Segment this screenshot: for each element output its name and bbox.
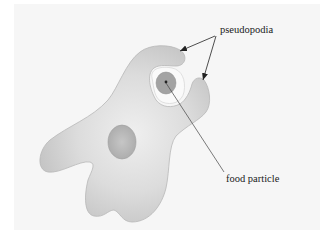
amoeba-diagram: pseudopodia food particle xyxy=(0,0,334,237)
label-food-particle: food particle xyxy=(226,173,280,184)
food-particle-dot xyxy=(165,81,168,84)
label-pseudopodia: pseudopodia xyxy=(220,24,273,35)
nucleus xyxy=(108,125,136,159)
